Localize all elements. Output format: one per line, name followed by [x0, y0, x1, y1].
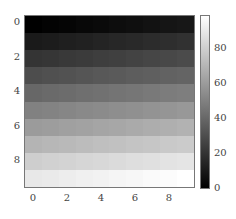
heatmap-cell: [109, 170, 126, 187]
heatmap-cell: [126, 84, 143, 101]
heatmap-cell: [143, 170, 160, 187]
y-tick-label: 8: [13, 155, 21, 165]
heatmap-cell: [177, 67, 194, 84]
heatmap-cell: [160, 33, 177, 50]
heatmap-cell: [93, 136, 110, 153]
heatmap-cell: [76, 119, 93, 136]
heatmap-cell: [109, 16, 126, 33]
heatmap-cell: [109, 119, 126, 136]
heatmap-cell: [93, 102, 110, 119]
heatmap-cell: [59, 84, 76, 101]
heatmap-cell: [160, 67, 177, 84]
heatmap-cell: [177, 33, 194, 50]
x-tick-label: 0: [27, 193, 39, 203]
heatmap-cell: [177, 170, 194, 187]
heatmap-cell: [143, 16, 160, 33]
heatmap-cell: [143, 33, 160, 50]
heatmap-cell: [42, 67, 59, 84]
heatmap-cell: [177, 136, 194, 153]
heatmap-cell: [25, 16, 42, 33]
heatmap-cell: [59, 16, 76, 33]
heatmap-cell: [160, 153, 177, 170]
heatmap-cell: [42, 136, 59, 153]
heatmap-cell: [59, 33, 76, 50]
heatmap-cell: [109, 84, 126, 101]
heatmap-cell: [143, 153, 160, 170]
heatmap-cell: [93, 33, 110, 50]
heatmap-cell: [59, 102, 76, 119]
heatmap-cell: [109, 33, 126, 50]
heatmap-cell: [160, 50, 177, 67]
heatmap-cell: [126, 102, 143, 119]
heatmap-cell: [143, 136, 160, 153]
heatmap-cell: [25, 136, 42, 153]
colorbar-tick-label: 40: [214, 113, 227, 123]
colorbar-tick-label: 80: [214, 43, 227, 53]
heatmap-cell: [126, 153, 143, 170]
heatmap-cell: [109, 67, 126, 84]
heatmap-cell: [25, 67, 42, 84]
heatmap-cell: [25, 33, 42, 50]
heatmap-cell: [76, 170, 93, 187]
heatmap-cell: [177, 102, 194, 119]
heatmap-cell: [160, 84, 177, 101]
heatmap-cell: [109, 102, 126, 119]
heatmap-cell: [42, 153, 59, 170]
heatmap-cell: [109, 50, 126, 67]
heatmap-cell: [25, 170, 42, 187]
heatmap-cell: [126, 16, 143, 33]
heatmap-cell: [177, 119, 194, 136]
colorbar-tick-label: 60: [214, 78, 227, 88]
heatmap-cell: [177, 84, 194, 101]
heatmap-cell: [59, 136, 76, 153]
x-tick-label: 6: [129, 193, 141, 203]
heatmap-cell: [126, 136, 143, 153]
heatmap-cell: [25, 119, 42, 136]
heatmap-cell: [126, 119, 143, 136]
heatmap-cell: [59, 153, 76, 170]
heatmap-cell: [42, 102, 59, 119]
x-tick-label: 8: [163, 193, 175, 203]
heatmap-cell: [76, 153, 93, 170]
y-tick-label: 4: [13, 86, 21, 96]
heatmap-cell: [25, 102, 42, 119]
heatmap-cell: [177, 50, 194, 67]
heatmap-cell: [76, 136, 93, 153]
heatmap-cell: [93, 119, 110, 136]
heatmap-cell: [42, 84, 59, 101]
y-tick-label: 0: [13, 17, 21, 27]
heatmap-cell: [143, 102, 160, 119]
heatmap-cell: [76, 84, 93, 101]
heatmap-cell: [59, 50, 76, 67]
heatmap-cell: [143, 50, 160, 67]
heatmap-cell: [160, 16, 177, 33]
heatmap-cell: [93, 67, 110, 84]
heatmap-cell: [109, 136, 126, 153]
heatmap-cell: [177, 153, 194, 170]
heatmap-cell: [93, 170, 110, 187]
heatmap-cell: [143, 119, 160, 136]
heatmap-cell: [76, 16, 93, 33]
heatmap-cell: [59, 67, 76, 84]
heatmap-cell: [25, 153, 42, 170]
heatmap-cell: [143, 67, 160, 84]
colorbar-tick-label: 20: [214, 148, 227, 158]
heatmap-cell: [160, 170, 177, 187]
heatmap-cell: [42, 50, 59, 67]
heatmap-cell: [76, 50, 93, 67]
heatmap-cell: [126, 67, 143, 84]
heatmap-cell: [160, 102, 177, 119]
heatmap-cell: [93, 153, 110, 170]
heatmap-cell: [42, 170, 59, 187]
heatmap-cell: [93, 50, 110, 67]
heatmap-cell: [160, 136, 177, 153]
heatmap-cell: [25, 84, 42, 101]
heatmap-plot: [24, 15, 195, 188]
heatmap-cell: [42, 119, 59, 136]
y-tick-label: 2: [13, 52, 21, 62]
heatmap-cell: [25, 50, 42, 67]
heatmap-cell: [126, 50, 143, 67]
heatmap-cell: [76, 67, 93, 84]
heatmap-cell: [109, 153, 126, 170]
heatmap-cell: [42, 16, 59, 33]
